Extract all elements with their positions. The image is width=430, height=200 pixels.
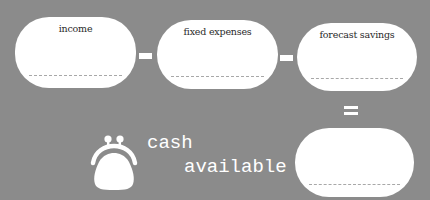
fixed-expenses-label: fixed expenses: [157, 26, 278, 37]
fixed-expenses-entry-line: [171, 76, 264, 77]
forecast-savings-entry-line: [311, 78, 403, 79]
income-label: income: [15, 23, 136, 34]
cash-available-entry-line: [309, 184, 400, 185]
income-entry-line: [29, 75, 122, 76]
forecast-savings-label: forecast savings: [297, 29, 417, 40]
minus-operator: [139, 53, 152, 59]
fixed-expenses-box[interactable]: fixed expenses: [157, 20, 278, 89]
forecast-savings-box[interactable]: forecast savings: [297, 23, 417, 91]
income-box[interactable]: income: [15, 17, 136, 88]
caption-cash: cash: [147, 134, 193, 153]
minus-operator: [280, 55, 293, 61]
purse-icon: [89, 134, 141, 192]
caption-available: available: [184, 158, 287, 177]
cash-available-value[interactable]: [309, 168, 400, 182]
income-value[interactable]: [29, 61, 122, 75]
fixed-expenses-value[interactable]: [171, 62, 264, 76]
forecast-savings-value[interactable]: [311, 63, 403, 77]
cash-available-box[interactable]: [295, 128, 414, 197]
